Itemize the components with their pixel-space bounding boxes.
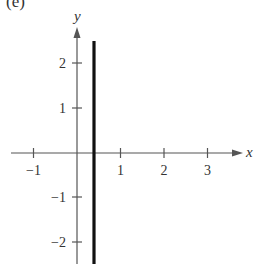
x-tick-label-3: 3 bbox=[204, 163, 211, 178]
x-tick-label-neg1: −1 bbox=[26, 163, 41, 178]
x-axis-label: x bbox=[245, 144, 253, 160]
y-tick-label-1: 1 bbox=[59, 101, 66, 116]
y-tick-label-neg1: −1 bbox=[51, 190, 66, 205]
x-tick-label-1: 1 bbox=[117, 163, 124, 178]
y-tick-label-neg2: −2 bbox=[51, 235, 66, 250]
y-axis-label: y bbox=[72, 8, 81, 24]
panel-label: (e) bbox=[6, 0, 25, 11]
y-axis-arrow-icon bbox=[74, 27, 81, 38]
x-tick-label-2: 2 bbox=[161, 163, 168, 178]
y-tick-label-2: 2 bbox=[59, 56, 66, 71]
x-axis-arrow-icon bbox=[232, 150, 243, 157]
graph: (e) x y −1 1 2 3 2 1 −1 −2 bbox=[0, 0, 263, 264]
